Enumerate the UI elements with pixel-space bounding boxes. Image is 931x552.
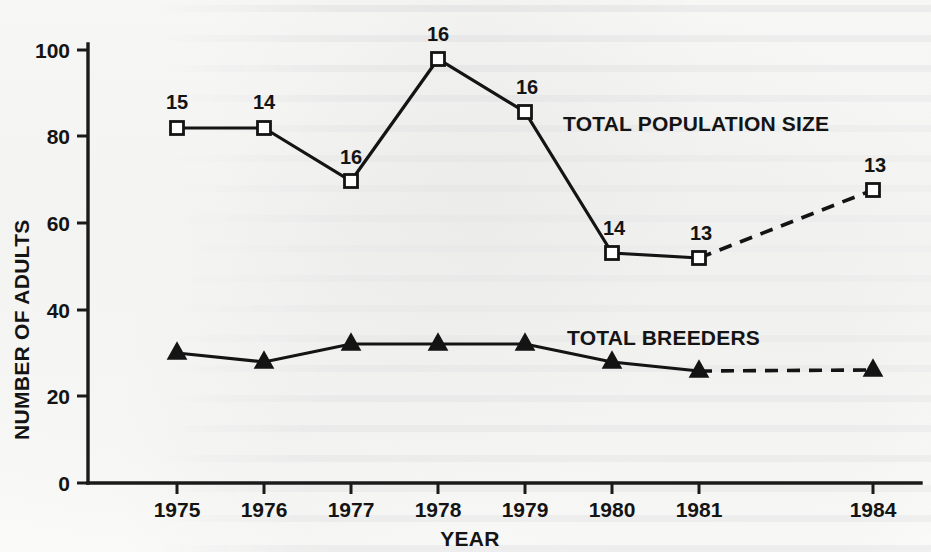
breeders-marker-1978 xyxy=(429,334,447,350)
population-point-label-1980: 14 xyxy=(603,217,626,239)
line-chart: 100 80 60 40 20 0 1975 1976 1977 1978 19… xyxy=(0,0,931,552)
chart-page: 100 80 60 40 20 0 1975 1976 1977 1978 19… xyxy=(0,0,931,552)
y-tick-label-80: 80 xyxy=(47,125,70,148)
breeders-marker-1979 xyxy=(516,334,534,350)
breeders-marker-1984 xyxy=(864,360,882,376)
x-tick-label-1981: 1981 xyxy=(676,498,723,521)
x-tick-label-1975: 1975 xyxy=(154,498,201,521)
y-axis-title: NUMBER OF ADULTS xyxy=(10,219,33,440)
x-tick-label-1978: 1978 xyxy=(415,498,462,521)
population-marker-1978 xyxy=(432,53,445,66)
x-axis-title: YEAR xyxy=(440,527,500,550)
series-label-total-breeders: TOTAL BREEDERS xyxy=(567,326,760,349)
breeders-marker-1975 xyxy=(168,343,186,359)
series-total-breeders: TOTAL BREEDERS xyxy=(168,326,882,377)
population-dashed-line xyxy=(699,190,873,258)
population-marker-1980 xyxy=(606,247,619,260)
population-marker-1981 xyxy=(693,252,706,265)
y-tick-label-60: 60 xyxy=(47,212,70,235)
series-label-total-population-size: TOTAL POPULATION SIZE xyxy=(563,112,829,135)
x-tick-label-1984: 1984 xyxy=(850,498,897,521)
population-marker-1979 xyxy=(519,106,532,119)
population-marker-1976 xyxy=(258,122,271,135)
population-point-label-1976: 14 xyxy=(253,91,276,113)
y-tick-label-20: 20 xyxy=(47,385,70,408)
x-tick-label-1980: 1980 xyxy=(589,498,636,521)
x-tick-label-1977: 1977 xyxy=(328,498,375,521)
series-total-population-size: 15 14 16 16 16 14 13 13 TOTAL POPULATION… xyxy=(166,23,886,265)
breeders-marker-1977 xyxy=(342,334,360,350)
y-tick-label-group: 100 80 60 40 20 0 xyxy=(35,39,70,495)
x-tick-label-1976: 1976 xyxy=(241,498,288,521)
breeders-dashed-line xyxy=(699,370,873,371)
y-tick-label-0: 0 xyxy=(58,472,70,495)
population-marker-1977 xyxy=(345,175,358,188)
population-point-label-1981: 13 xyxy=(690,222,712,244)
population-marker-1975 xyxy=(171,122,184,135)
y-tick-label-40: 40 xyxy=(47,299,70,322)
x-tick-label-1979: 1979 xyxy=(502,498,549,521)
axis-group xyxy=(88,44,921,483)
population-point-label-1975: 15 xyxy=(166,91,188,113)
population-point-label-1978: 16 xyxy=(427,23,449,45)
x-tick-label-group: 1975 1976 1977 1978 1979 1980 1981 1984 xyxy=(154,498,897,521)
population-marker-1984 xyxy=(867,184,880,197)
y-tick-label-100: 100 xyxy=(35,39,70,62)
population-point-label-1984: 13 xyxy=(864,154,886,176)
population-point-label-1979: 16 xyxy=(516,76,538,98)
population-point-label-1977: 16 xyxy=(340,146,362,168)
